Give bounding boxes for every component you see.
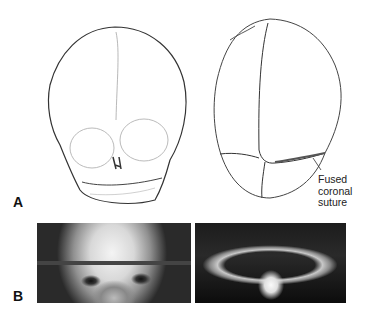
- fused-coronal-suture-label: Fused coronal suture: [318, 174, 352, 209]
- panel-label-a: A: [13, 194, 23, 210]
- skull-frontal-drawing: [20, 10, 200, 210]
- panel-label-b: B: [13, 288, 23, 304]
- child-vertex-photo: [195, 223, 346, 303]
- child-face-photo: [37, 223, 191, 303]
